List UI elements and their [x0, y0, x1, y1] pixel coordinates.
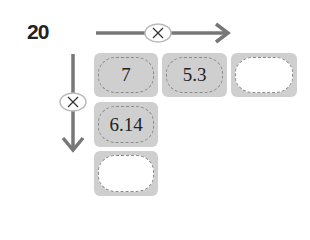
multiply-icon-horizontal	[145, 24, 171, 42]
box-value: 5.3	[166, 57, 223, 93]
box-col-answer[interactable]	[94, 151, 158, 196]
multiply-icon-vertical	[60, 93, 86, 111]
box-value: 7	[98, 57, 154, 93]
box-col-middle: 6.14	[94, 102, 158, 147]
box-start: 7	[94, 53, 158, 97]
box-value: 6.14	[98, 106, 154, 143]
box-row-answer[interactable]	[231, 53, 297, 97]
box-row-middle: 5.3	[162, 53, 227, 97]
answer-blank[interactable]	[235, 57, 293, 93]
answer-blank[interactable]	[98, 155, 154, 192]
